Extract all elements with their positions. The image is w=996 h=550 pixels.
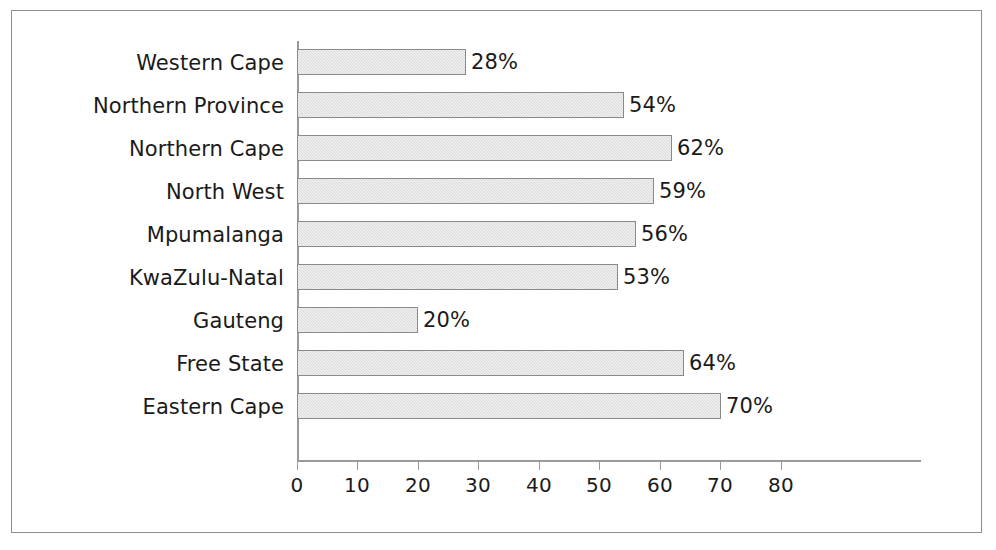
x-tick-mark (357, 462, 358, 470)
bar-value-label: 62% (677, 136, 724, 160)
bar-free-state[interactable] (297, 350, 684, 376)
x-tick-mark (781, 462, 782, 470)
category-axis-line (297, 460, 921, 462)
x-tick-mark (478, 462, 479, 470)
bar-northern-cape[interactable] (297, 135, 672, 161)
bar-eastern-cape[interactable] (297, 393, 721, 419)
bar-value-label: 28% (471, 50, 518, 74)
bar-mpumalanga[interactable] (297, 221, 636, 247)
x-tick-label: 50 (586, 473, 612, 497)
x-tick-mark (660, 462, 661, 470)
x-tick-mark (720, 462, 721, 470)
bar-value-label: 56% (641, 222, 688, 246)
bar-value-label: 64% (689, 351, 736, 375)
bar-value-label: 70% (726, 394, 773, 418)
x-tick-mark (297, 462, 298, 470)
category-label: KwaZulu-Natal (129, 266, 284, 290)
category-label: Eastern Cape (143, 395, 284, 419)
category-axis-labels: Western Cape Northern Province Northern … (12, 41, 284, 461)
x-tick-label: 80 (768, 473, 794, 497)
plot-area: 28% 54% 62% 59% 56% 53% (297, 41, 921, 461)
x-tick-label: 60 (647, 473, 673, 497)
x-tick-label: 70 (707, 473, 733, 497)
category-label: Western Cape (136, 51, 284, 75)
category-label: Gauteng (193, 309, 284, 333)
x-tick-label: 40 (526, 473, 552, 497)
x-tick-mark (599, 462, 600, 470)
bar-northern-province[interactable] (297, 92, 624, 118)
figure: Western Cape Northern Province Northern … (0, 0, 996, 550)
bar-value-label: 53% (623, 265, 670, 289)
chart-frame: Western Cape Northern Province Northern … (11, 10, 982, 533)
bar-gauteng[interactable] (297, 307, 418, 333)
bar-north-west[interactable] (297, 178, 654, 204)
x-tick-mark (539, 462, 540, 470)
category-label: Mpumalanga (147, 223, 284, 247)
x-tick-label: 30 (465, 473, 491, 497)
bar-value-label: 54% (629, 93, 676, 117)
category-label: North West (166, 180, 284, 204)
bar-value-label: 20% (423, 308, 470, 332)
bar-value-label: 59% (659, 179, 706, 203)
category-label: Northern Province (93, 94, 284, 118)
x-tick-label: 20 (405, 473, 431, 497)
category-label: Free State (176, 352, 284, 376)
bar-kwazulu-natal[interactable] (297, 264, 618, 290)
x-tick-label: 0 (290, 473, 303, 497)
x-tick-label: 10 (344, 473, 370, 497)
category-label: Northern Cape (129, 137, 284, 161)
x-tick-mark (418, 462, 419, 470)
bar-western-cape[interactable] (297, 49, 466, 75)
